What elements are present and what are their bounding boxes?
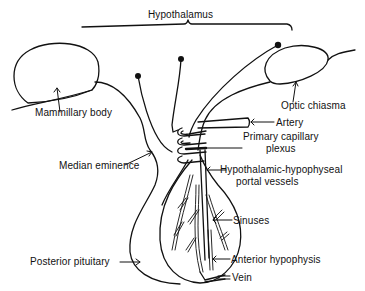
neuron-axon-3 [189, 45, 278, 137]
hypothalamus-bracket [82, 20, 292, 30]
label-mammillary-body: Mammillary body [35, 107, 112, 118]
label-portal-vessels-2: portal vessels [236, 176, 299, 187]
label-optic-chiasma: Optic chiasma [281, 100, 346, 111]
label-sinuses: Sinuses [233, 215, 269, 226]
hypothalamus-pituitary-diagram: Hypothalamus Mammillary body Optic chias… [0, 0, 365, 291]
optic-nerve [328, 50, 355, 60]
neuron-axon-2 [172, 59, 181, 132]
portal-vessel-1 [200, 150, 205, 260]
label-primary-capillary-plexus-1: Primary capillary [243, 131, 319, 142]
mammillary-body-outline [14, 43, 99, 103]
label-hypothalamus: Hypothalamus [148, 9, 213, 20]
label-median-eminence: Median eminence [59, 160, 139, 171]
label-primary-capillary-plexus-2: plexus [266, 143, 296, 154]
label-posterior-pituitary: Posterior pituitary [30, 256, 110, 267]
label-artery: Artery [276, 117, 303, 128]
diagram-artwork [0, 0, 365, 291]
vein [200, 272, 225, 282]
label-vein: Vein [232, 272, 252, 283]
sinuses [172, 175, 229, 272]
neuron-axon-1 [138, 76, 172, 152]
optic-chiasma-outline [265, 46, 328, 84]
label-anterior-hypophysis: Anterior hypophysis [231, 254, 321, 265]
label-portal-vessels-1: Hypothalamic-hypophyseal [220, 164, 342, 175]
